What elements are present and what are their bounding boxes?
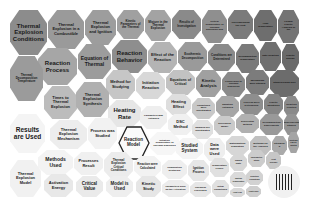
cell-label: Initiation Temperature of Thermal Explos… bbox=[152, 140, 177, 148]
cell-label: Conditions are Determined bbox=[210, 54, 233, 60]
treemap-cell: Results of Investigation bbox=[172, 10, 201, 39]
cell-label: Reaction Conditions bbox=[248, 175, 261, 179]
cell-label: Activation Energy bbox=[46, 181, 71, 189]
treemap-cell: Samples are Investigated bbox=[192, 120, 213, 139]
treemap-cell: Ignition Process bbox=[188, 160, 209, 181]
logo-badge bbox=[268, 166, 300, 198]
cell-label: Equations of Critical bbox=[168, 79, 193, 86]
treemap-cell: Thermal Explosion Mechanism bbox=[50, 120, 87, 149]
treemap-cell: Temperature Profile bbox=[210, 158, 229, 177]
logo-icon bbox=[276, 174, 292, 190]
treemap-cell: Calorimetric Study bbox=[248, 150, 265, 167]
treemap-cell: Initiation Reaction bbox=[136, 72, 165, 99]
cell-label: Results are Used bbox=[12, 127, 43, 141]
treemap-cell: Kinetic Energy bbox=[282, 44, 299, 71]
cell-label: Critical Temperature of Thermal Explosio… bbox=[204, 21, 225, 32]
cell-label: Reaction Behavior bbox=[114, 50, 145, 63]
cell-label: Ignition Temperature bbox=[232, 177, 245, 181]
treemap-cell: Thermal Explosion in a Combustible bbox=[48, 10, 84, 49]
treemap-cell: Thermal Explosion Synthesis bbox=[76, 82, 109, 117]
treemap-cell: Heat Loss bbox=[246, 186, 261, 197]
cell-label: Thermal Explosion in a Combustible bbox=[50, 23, 82, 36]
treemap-cell: Thermal Decomposition Temperature bbox=[10, 56, 43, 101]
cell-label: Combustion Synthesis bbox=[164, 167, 185, 172]
treemap-cell: Initial Conditions bbox=[212, 180, 229, 197]
treemap-cell: Model is Used bbox=[106, 176, 133, 197]
cell-label: Decomposition Experiments bbox=[262, 122, 281, 127]
cell-label: Studied System bbox=[178, 144, 201, 153]
cell-label: Mixture in the Thermal Explosion bbox=[147, 21, 169, 30]
cell-label: Calorimetric Study bbox=[250, 156, 263, 160]
cell-label: Initial Conditions bbox=[214, 186, 227, 191]
treemap-cell: Activation Energy bbox=[44, 174, 73, 197]
cell-label: Kinetic Parameters of the Thermal bbox=[119, 20, 142, 29]
cell-label: Thermal Explosion and Ignition bbox=[87, 21, 114, 34]
cell-label: Heating Effect bbox=[168, 100, 189, 108]
treemap-cell: Systems can be Ignited bbox=[288, 132, 299, 153]
treemap-cell: Equation Obtained bbox=[216, 96, 239, 117]
cell-label: Reaction were Calculated bbox=[136, 163, 159, 169]
treemap-cell: Developed Model bbox=[214, 116, 235, 135]
cell-label: Process were Determined bbox=[242, 102, 261, 107]
treemap-cell: Effect of the Reaction bbox=[148, 42, 177, 73]
treemap-cell: Data were Used bbox=[204, 138, 225, 161]
cell-label: Heat Flux bbox=[233, 191, 242, 193]
cell-label: Samples are Investigated bbox=[194, 127, 211, 132]
cell-label: DSC Method bbox=[170, 120, 191, 128]
treemap-cell: High Temperature bbox=[254, 10, 277, 41]
treemap-cell: Processes Result bbox=[74, 152, 103, 175]
cell-label: Exothermic Decomposition bbox=[180, 53, 205, 59]
treemap-cell: Mixture in the Thermal Explosion bbox=[145, 10, 171, 41]
treemap-cell: Equation of Thermal bbox=[78, 44, 111, 79]
cell-label: Conditions were Investigated bbox=[194, 105, 213, 113]
cell-label: High Temperature bbox=[256, 23, 275, 28]
cell-label: Process was Studied bbox=[90, 129, 115, 137]
cell-label: Formal Kinetic Analysis of the bbox=[280, 21, 297, 32]
treemap-cell: Thermal Explosion Conditions bbox=[10, 10, 47, 55]
cell-label: Thermal Explosion Model bbox=[12, 172, 39, 185]
treemap-cell: Critical Temperature of Thermal Explosio… bbox=[202, 10, 227, 43]
treemap-cell: Corresponding the Heat bbox=[228, 10, 253, 39]
cell-label: Results of Investigation bbox=[174, 21, 199, 27]
cell-label: Kinetic Analysis bbox=[198, 79, 219, 87]
cell-label: Rate Reaction bbox=[262, 55, 279, 58]
treemap-cell: Ignition Temperature bbox=[230, 172, 247, 187]
treemap-cell: Thermal Explosion Model bbox=[10, 160, 41, 197]
cell-label: Methods for the Analysis bbox=[252, 143, 269, 148]
treemap-cell: Conversion to Thermal Explosion bbox=[222, 72, 245, 97]
treemap-cell: Conditions are Determined bbox=[208, 44, 235, 71]
cell-label: Processes Result bbox=[76, 159, 101, 167]
cell-label: Thermal Explosion Conditions bbox=[12, 23, 45, 42]
cell-label: Heat Loss bbox=[249, 190, 259, 192]
treemap-cell: Rate Reaction bbox=[260, 42, 281, 71]
treemap-cell: Times to Thermal Explosion bbox=[44, 86, 77, 119]
treemap-cell: Conditions were Investigated bbox=[192, 98, 215, 119]
cell-label: Kinetic Study bbox=[138, 182, 159, 190]
treemap-cell: Parameters such as the Activation bbox=[162, 180, 189, 197]
cell-label: Times to Thermal Explosion bbox=[46, 96, 75, 109]
treemap-cell: DSC Method bbox=[168, 114, 193, 135]
treemap-cell: Decomposition Temperature bbox=[236, 44, 259, 73]
cell-label: Method for Studying bbox=[108, 80, 133, 88]
treemap-cell: Experimental Studies bbox=[284, 114, 299, 135]
cell-label: Chemical Processes bbox=[192, 187, 209, 192]
cell-label: Rapid Rate bbox=[232, 160, 245, 165]
treemap-cell: Reaction were Calculated bbox=[134, 156, 161, 177]
cell-label: Parameters such as the Activation bbox=[164, 186, 187, 191]
cell-label: Equation of Thermal bbox=[80, 56, 109, 67]
cell-label: Systems can be Ignited bbox=[289, 139, 297, 145]
cell-label: Ignition Process bbox=[190, 167, 207, 173]
treemap-cell: Method for Studying bbox=[106, 70, 135, 99]
cell-label: Temperature Profile bbox=[212, 165, 227, 170]
treemap-cell: Exothermic Decomposition bbox=[178, 42, 207, 71]
cell-label: Thermal Explosion Mechanism bbox=[52, 128, 85, 141]
cell-label: Initiation Reaction bbox=[138, 81, 163, 89]
treemap-cell: Initiation Temperature of Thermal Explos… bbox=[150, 132, 179, 155]
treemap-cell: Formal Kinetic Analysis of the bbox=[278, 10, 299, 43]
treemap-cell: Rapid Rate bbox=[230, 154, 247, 171]
cell-label: Effect of the Reaction bbox=[150, 53, 175, 61]
treemap-cell: Kinetic Parameters of the Thermal bbox=[117, 10, 144, 39]
cell-label: Differential Method bbox=[238, 121, 257, 126]
treemap-cell: Heating Effect bbox=[166, 94, 191, 115]
treemap-cell: Differential Method bbox=[236, 114, 259, 133]
